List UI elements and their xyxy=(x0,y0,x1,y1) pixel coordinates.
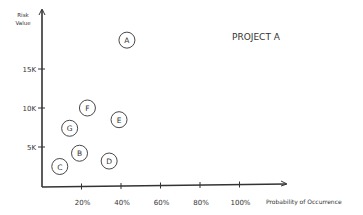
data-point-d: D xyxy=(101,153,117,169)
data-point-a: A xyxy=(119,32,135,48)
x-tick-label: 100% xyxy=(230,199,250,207)
x-tick-label: 40% xyxy=(114,199,130,207)
chart-title: PROJECT A xyxy=(232,32,281,42)
y-tick-label: 10K xyxy=(23,105,37,113)
data-point-b: B xyxy=(72,145,88,161)
y-axis-label-line2: Value xyxy=(15,20,31,26)
svg-text:C: C xyxy=(57,163,62,172)
svg-text:F: F xyxy=(85,104,89,113)
x-tick-label: 60% xyxy=(154,199,170,207)
data-point-e: E xyxy=(111,112,127,128)
risk-scatter-chart: 20%40%60%80%100%5K10K15K ABCDEFG PROJECT… xyxy=(0,0,363,215)
svg-text:A: A xyxy=(124,36,130,45)
svg-text:E: E xyxy=(117,116,122,125)
svg-text:G: G xyxy=(67,124,73,133)
data-point-f: F xyxy=(79,100,95,116)
data-point-g: G xyxy=(62,120,78,136)
svg-text:D: D xyxy=(106,157,112,166)
x-tick-label: 80% xyxy=(193,199,209,207)
svg-text:B: B xyxy=(77,149,82,158)
y-tick-label: 5K xyxy=(27,144,36,152)
x-tick-label: 20% xyxy=(75,199,91,207)
y-axis-label-line1: Risk xyxy=(17,12,29,18)
x-axis xyxy=(42,184,286,187)
data-point-c: C xyxy=(52,159,68,175)
y-tick-label: 15K xyxy=(23,66,37,74)
x-axis-label: Probability of Occurrence xyxy=(266,198,342,206)
